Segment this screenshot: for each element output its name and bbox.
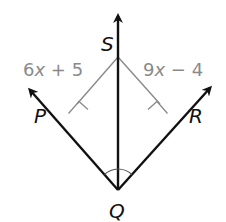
expression-SP: 6x + 5 [23,59,83,80]
angle-arc-left [105,169,119,175]
expression-SR: 9x − 4 [143,59,203,80]
right-angle-mark-R [148,102,168,114]
diagram-svg: S P R Q 6x + 5 9x − 4 [0,0,226,222]
label-Q: Q [109,199,125,222]
label-R: R [189,104,203,128]
label-S: S [101,32,114,56]
right-angle-mark-P [69,102,89,114]
angle-arc-right [118,169,132,175]
perpendicular-SP [77,57,118,104]
angle-bisector-diagram: S P R Q 6x + 5 9x − 4 [0,0,226,222]
label-P: P [34,104,47,128]
